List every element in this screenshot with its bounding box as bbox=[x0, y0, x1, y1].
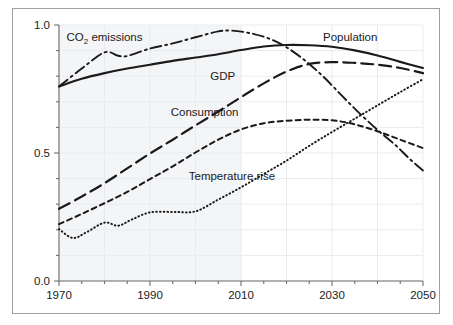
x-tick-label: 1990 bbox=[137, 289, 163, 301]
y-tick-label: 1.0 bbox=[34, 19, 50, 31]
series-label-population: Population bbox=[323, 31, 377, 43]
series-label-gdp: GDP bbox=[210, 70, 235, 82]
line-chart: 0.00.51.0 19701990201020302050 Populatio… bbox=[0, 0, 453, 325]
x-tick-label: 2050 bbox=[410, 289, 436, 301]
y-tick-label: 0.5 bbox=[34, 147, 50, 159]
x-tick-label: 2030 bbox=[319, 289, 345, 301]
y-axis-tick-labels: 0.00.51.0 bbox=[34, 19, 50, 287]
series-label-temperature-rise: Temperature rise bbox=[189, 170, 275, 182]
x-axis-tick-labels: 19701990201020302050 bbox=[46, 289, 436, 301]
chart-root: 0.00.51.0 19701990201020302050 Populatio… bbox=[0, 0, 453, 325]
series-label-consumption: Consumption bbox=[171, 106, 239, 118]
x-tick-label: 1970 bbox=[46, 289, 72, 301]
y-tick-label: 0.0 bbox=[34, 275, 50, 287]
x-tick-label: 2010 bbox=[228, 289, 254, 301]
